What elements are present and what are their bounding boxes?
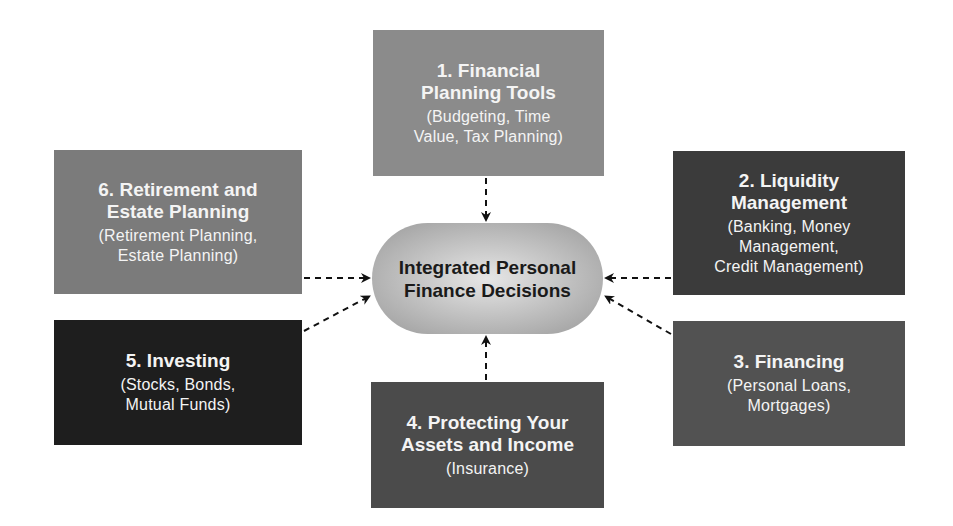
center-integrated-decisions: Integrated Personal Finance Decisions: [372, 223, 603, 334]
title-line: Planning Tools: [421, 82, 556, 104]
subtitle-line: Mortgages): [727, 396, 851, 416]
title-line: 6. Retirement and: [98, 179, 257, 201]
node-retirement-estate-planning: 6. Retirement and Estate Planning (Retir…: [54, 150, 302, 294]
node-title: 2. Liquidity Management: [731, 170, 847, 214]
subtitle-line: (Retirement Planning,: [99, 226, 258, 246]
subtitle-line: Estate Planning): [99, 246, 258, 266]
title-line: 1. Financial: [421, 60, 556, 82]
title-line: 3. Financing: [734, 351, 845, 373]
node-subtitle: (Banking, Money Management, Credit Manag…: [714, 217, 863, 277]
node-title: 6. Retirement and Estate Planning: [98, 179, 257, 223]
subtitle-line: (Personal Loans,: [727, 376, 851, 396]
node-title: 1. Financial Planning Tools: [421, 60, 556, 104]
subtitle-line: Management,: [714, 237, 863, 257]
subtitle-line: Mutual Funds): [120, 395, 235, 415]
node-subtitle: (Insurance): [446, 459, 529, 479]
subtitle-line: (Budgeting, Time: [414, 107, 563, 127]
node-protecting-assets-income: 4. Protecting Your Assets and Income (In…: [371, 382, 604, 508]
title-line: 4. Protecting Your: [401, 412, 574, 434]
node-subtitle: (Personal Loans, Mortgages): [727, 376, 851, 416]
node-subtitle: (Stocks, Bonds, Mutual Funds): [120, 375, 235, 415]
subtitle-line: (Insurance): [446, 459, 529, 479]
node-title: 5. Investing: [126, 350, 231, 372]
subtitle-line: (Banking, Money: [714, 217, 863, 237]
title-line: Estate Planning: [98, 201, 257, 223]
subtitle-line: Value, Tax Planning): [414, 127, 563, 147]
center-title-line: Integrated Personal: [399, 256, 576, 279]
node-subtitle: (Retirement Planning, Estate Planning): [99, 226, 258, 266]
center-title-line: Finance Decisions: [399, 279, 576, 302]
title-line: 2. Liquidity: [731, 170, 847, 192]
node-investing: 5. Investing (Stocks, Bonds, Mutual Fund…: [54, 320, 302, 445]
node-title: 4. Protecting Your Assets and Income: [401, 412, 574, 456]
arrow-5-to-center: [304, 296, 370, 331]
subtitle-line: (Stocks, Bonds,: [120, 375, 235, 395]
arrow-3-to-center: [605, 296, 671, 334]
subtitle-line: Credit Management): [714, 257, 863, 277]
node-financial-planning-tools: 1. Financial Planning Tools (Budgeting, …: [373, 30, 604, 176]
title-line: Management: [731, 192, 847, 214]
node-liquidity-management: 2. Liquidity Management (Banking, Money …: [673, 151, 905, 295]
node-subtitle: (Budgeting, Time Value, Tax Planning): [414, 107, 563, 147]
title-line: 5. Investing: [126, 350, 231, 372]
title-line: Assets and Income: [401, 434, 574, 456]
node-title: 3. Financing: [734, 351, 845, 373]
node-financing: 3. Financing (Personal Loans, Mortgages): [673, 321, 905, 446]
